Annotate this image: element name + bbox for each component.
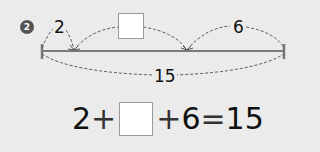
total-label: 15 [153, 68, 177, 85]
segment-middle-blank-box[interactable] [118, 13, 144, 39]
equation-term-1: 2 [72, 104, 91, 134]
equation-result: 15 [226, 104, 264, 134]
equation-blank-box[interactable] [119, 102, 153, 136]
equation-plus-1: + [91, 104, 116, 134]
segment-label-right: 6 [232, 19, 245, 36]
segment-label-left: 2 [53, 19, 66, 36]
equation-plus-2: + [156, 104, 181, 134]
equation-term-3: 6 [181, 104, 200, 134]
equation-equals: = [200, 104, 225, 134]
equation: 2 + + 6 = 15 [72, 102, 264, 136]
